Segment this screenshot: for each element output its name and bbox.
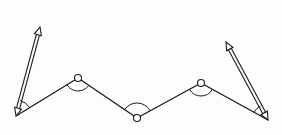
joint-3 (198, 80, 205, 87)
arrowhead-icon (34, 27, 41, 36)
diagram-canvas (0, 0, 282, 135)
zigzag-chain (16, 78, 268, 120)
joints (75, 75, 205, 122)
diagram-svg (0, 0, 282, 135)
chain-segment (201, 83, 268, 120)
angle-joint-3 (190, 89, 213, 96)
chain-segment (137, 83, 201, 118)
chain-segment (78, 78, 137, 118)
joint-2 (134, 115, 141, 122)
angle-arcs (20, 85, 260, 112)
chain-segment (16, 78, 78, 116)
angle-joint-2 (125, 103, 151, 111)
end-arrows (15, 27, 268, 120)
joint-1 (75, 75, 82, 82)
angle-joint-1 (67, 85, 89, 91)
